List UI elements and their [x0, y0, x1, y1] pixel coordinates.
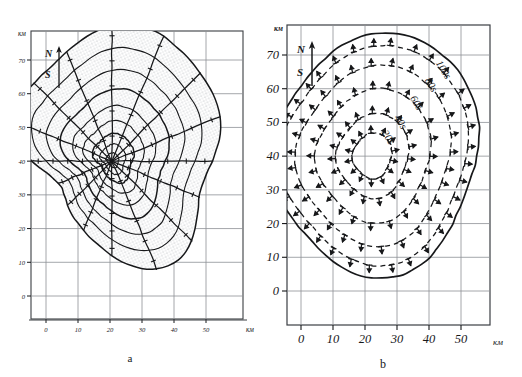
- flow-arrow-base-tick: [376, 198, 381, 199]
- panel-b-x-unit: км: [493, 337, 503, 347]
- panel-a-x-tick-label: 30: [138, 326, 146, 333]
- panel-a-y-tick-label: 10: [18, 259, 25, 266]
- panel-b-svg: 20s40s60s80s100s 706050403020100 0102030…: [261, 0, 522, 377]
- panel-a-x-unit: км: [246, 326, 254, 334]
- panel-a-x-tick-label: 10: [75, 326, 82, 333]
- panel-b-x-tick-label: 10: [327, 332, 340, 346]
- panel-a-y-tick-label: 30: [17, 191, 25, 198]
- panel-a-svg: 706050403020100 01020304050 км км N S a: [0, 0, 261, 377]
- panel-a-y-tick-label: 40: [18, 158, 25, 165]
- compass-north-label: N: [296, 43, 306, 55]
- panel-b-y-tick-label: 50: [267, 115, 280, 129]
- compass-south-label: S: [297, 66, 303, 78]
- panel-b-x-ticks: 01020304050: [298, 325, 468, 346]
- panel-a-y-tick-label: 50: [18, 124, 25, 131]
- panel-b: 20s40s60s80s100s 706050403020100 0102030…: [261, 0, 522, 377]
- flow-arrow-head: [272, 165, 276, 169]
- panel-b-y-ticks: 706050403020100: [266, 48, 288, 298]
- flow-arrow: [272, 147, 279, 148]
- panel-b-x-tick-label: 30: [390, 332, 404, 346]
- panel-b-y-tick-label: 40: [267, 149, 280, 163]
- flow-arrow-base-tick: [278, 164, 279, 169]
- panel-a-x-tick-label: 0: [44, 326, 48, 333]
- flow-arrow-base-tick: [446, 166, 447, 171]
- panel-b-caption: b: [380, 357, 386, 371]
- panel-a-x-tick-label: 50: [203, 326, 210, 333]
- panel-a-y-tick-label: 0: [22, 293, 26, 300]
- flow-arrow-base-tick: [351, 52, 356, 53]
- panel-a-x-ticks: 01020304050: [29, 319, 247, 333]
- panel-b-y-tick-label: 30: [266, 183, 280, 197]
- panel-a-y-tick-label: 20: [18, 225, 25, 232]
- panel-a-x-tick-label: 40: [171, 326, 178, 333]
- panel-b-x-tick-label: 20: [359, 332, 372, 346]
- panel-a-x-tick-label: 20: [107, 326, 114, 333]
- flow-arrow-base-tick: [379, 246, 384, 247]
- panel-a: 706050403020100 01020304050 км км N S a: [0, 0, 261, 377]
- panel-b-y-tick-label: 70: [267, 48, 280, 62]
- panel-b-frame: [287, 25, 490, 325]
- panel-a-y-tick-label: 70: [18, 57, 25, 64]
- panel-b-x-tick-label: 50: [455, 332, 468, 346]
- panel-b-y-tick-label: 0: [273, 284, 280, 298]
- panel-b-y-tick-label: 10: [267, 250, 280, 264]
- panel-b-y-tick-label: 60: [267, 82, 280, 96]
- panel-a-y-tick-label: 60: [18, 90, 25, 97]
- flow-arrow-base-tick: [295, 165, 296, 170]
- panel-b-x-tick-label: 0: [298, 332, 305, 346]
- panel-b-y-tick-label: 20: [267, 217, 280, 231]
- flow-arrow-base-tick: [359, 243, 364, 244]
- panel-a-y-unit: км: [18, 30, 26, 38]
- flow-arrow-base-tick: [284, 128, 285, 133]
- flow-arrow-base-tick: [282, 180, 283, 185]
- figure-root: 706050403020100 01020304050 км км N S a: [0, 0, 522, 377]
- flow-arrow-head: [283, 196, 287, 200]
- compass-south-label: S: [45, 69, 51, 80]
- flow-arrow-base-tick: [387, 45, 392, 46]
- panel-a-y-ticks: 706050403020100: [17, 57, 31, 300]
- panel-a-caption: a: [128, 352, 133, 364]
- panel-b-y-unit: км: [274, 24, 283, 33]
- flow-arrow: [272, 167, 279, 168]
- compass-north-label: N: [44, 48, 53, 59]
- panel-b-x-tick-label: 40: [423, 332, 436, 346]
